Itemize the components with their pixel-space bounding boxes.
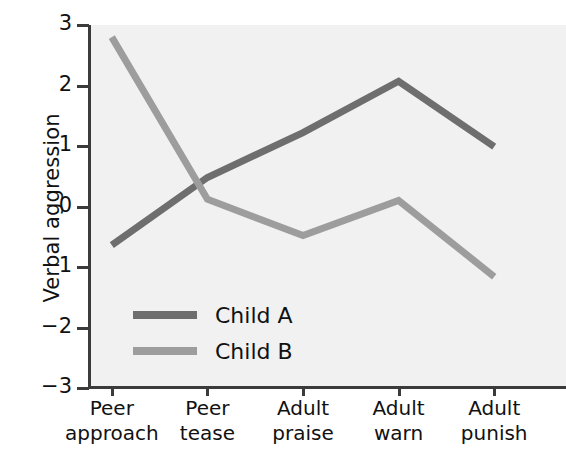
chart-figure: Verbal aggression 3210−1−2−3 Peerapproac… bbox=[0, 0, 566, 474]
series-line-child-b bbox=[112, 37, 494, 277]
legend-label: Child A bbox=[215, 303, 293, 328]
x-tick-label-line: punish bbox=[434, 421, 554, 446]
legend-label: Child B bbox=[215, 339, 293, 364]
legend-item-child-a: Child A bbox=[133, 297, 333, 333]
legend-swatch-icon bbox=[133, 311, 197, 319]
x-tick-2 bbox=[302, 386, 305, 396]
y-tick-label-6: −3 bbox=[30, 374, 72, 398]
y-tick-label-5: −2 bbox=[30, 314, 72, 338]
y-tick-6 bbox=[77, 387, 89, 390]
legend-item-child-b: Child B bbox=[133, 333, 333, 369]
y-tick-label-1: 2 bbox=[30, 72, 72, 96]
y-tick-label-4: −1 bbox=[30, 253, 72, 277]
x-tick-3 bbox=[398, 386, 401, 396]
x-tick-1 bbox=[206, 386, 209, 396]
x-tick-0 bbox=[111, 386, 114, 396]
y-tick-label-2: 1 bbox=[30, 132, 72, 156]
y-tick-5 bbox=[77, 327, 89, 330]
x-tick-label-4: Adultpunish bbox=[434, 396, 554, 446]
y-tick-0 bbox=[77, 24, 89, 27]
legend-swatch-icon bbox=[133, 347, 197, 355]
y-tick-4 bbox=[77, 266, 89, 269]
y-tick-2 bbox=[77, 145, 89, 148]
y-tick-label-3: 0 bbox=[30, 193, 72, 217]
x-tick-4 bbox=[493, 386, 496, 396]
y-tick-label-0: 3 bbox=[30, 11, 72, 35]
chart-legend: Child AChild B bbox=[133, 297, 333, 369]
series-line-child-a bbox=[112, 81, 494, 245]
x-tick-label-line: Adult bbox=[434, 396, 554, 421]
y-tick-3 bbox=[77, 206, 89, 209]
y-tick-1 bbox=[77, 85, 89, 88]
